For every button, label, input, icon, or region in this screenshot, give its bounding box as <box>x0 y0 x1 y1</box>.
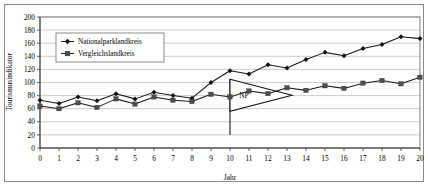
x-tick-label-1: 1 <box>57 154 61 163</box>
x-tick-label-14: 14 <box>302 154 310 163</box>
y-tick-label-200: 200 <box>24 13 35 22</box>
y-tick-label-40: 40 <box>28 117 36 126</box>
data-point-0-12 <box>266 62 271 67</box>
legend-marker-square-icon <box>65 51 70 56</box>
chart-legend: Nationalparklandkreis Vergleichslandkrei… <box>56 33 164 62</box>
x-tick-label-11: 11 <box>245 154 252 163</box>
data-point-1-15 <box>323 84 327 88</box>
data-point-0-0 <box>38 98 43 103</box>
figure-container: 020406080100120140160180200 012345678910… <box>0 0 428 186</box>
x-tick-label-12: 12 <box>264 154 272 163</box>
x-tick-label-17: 17 <box>359 154 367 163</box>
y-tick-label-20: 20 <box>28 131 36 140</box>
data-point-1-14 <box>304 88 308 92</box>
y-tick-label-160: 160 <box>24 39 35 48</box>
data-point-0-16 <box>342 53 347 58</box>
data-point-0-10 <box>228 68 233 73</box>
data-point-1-17 <box>361 81 365 85</box>
data-point-1-10 <box>228 95 232 99</box>
x-tick-label-4: 4 <box>114 154 118 163</box>
x-tick-label-6: 6 <box>152 154 156 163</box>
data-point-1-9 <box>209 92 213 96</box>
data-point-0-13 <box>285 66 290 71</box>
data-point-0-5 <box>133 96 138 101</box>
data-point-1-3 <box>95 105 99 109</box>
legend-label-vergleichslandkreis: Vergleichslandkreis <box>78 50 135 58</box>
x-tick-label-3: 3 <box>95 154 99 163</box>
data-point-1-19 <box>399 82 403 86</box>
data-point-0-1 <box>57 101 62 106</box>
data-point-0-7 <box>171 93 176 98</box>
x-tick-label-16: 16 <box>340 154 348 163</box>
x-tick-label-19: 19 <box>397 154 405 163</box>
data-point-1-2 <box>76 101 80 105</box>
y-axis-title: Tourismusindikator <box>5 53 14 111</box>
data-point-0-20 <box>418 36 423 41</box>
y-tick-label-100: 100 <box>24 78 35 87</box>
data-point-1-12 <box>266 91 270 95</box>
data-point-1-8 <box>190 99 194 103</box>
y-tick-label-140: 140 <box>24 52 35 61</box>
x-tick-label-9: 9 <box>209 154 213 163</box>
x-tick-label-10: 10 <box>226 154 234 163</box>
data-point-1-4 <box>114 97 118 101</box>
x-tick-label-15: 15 <box>321 154 329 163</box>
line-chart: 020406080100120140160180200 012345678910… <box>0 0 428 186</box>
data-point-1-16 <box>342 86 346 90</box>
data-point-1-13 <box>285 86 289 90</box>
x-axis-ticks-group: 01234567891011121314151617181920 <box>38 148 424 163</box>
x-tick-label-5: 5 <box>133 154 137 163</box>
x-tick-label-20: 20 <box>416 154 424 163</box>
x-tick-label-8: 8 <box>190 154 194 163</box>
legend-label-nationalparklandkreis: Nationalparklandkreis <box>78 38 142 46</box>
data-point-0-14 <box>304 57 309 62</box>
y-tick-label-80: 80 <box>28 91 36 100</box>
x-tick-label-13: 13 <box>283 154 291 163</box>
y-tick-label-0: 0 <box>31 144 35 153</box>
data-point-1-20 <box>418 75 422 79</box>
data-point-0-18 <box>380 42 385 47</box>
np-flag-annotation: NP <box>230 79 292 135</box>
data-point-1-18 <box>380 78 384 82</box>
data-point-1-1 <box>57 107 61 111</box>
data-point-1-6 <box>152 95 156 99</box>
y-axis-ticks-group: 020406080100120140160180200 <box>24 13 40 153</box>
data-point-1-7 <box>171 98 175 102</box>
x-tick-label-0: 0 <box>38 154 42 163</box>
data-point-1-11 <box>247 89 251 93</box>
data-point-0-6 <box>152 90 157 95</box>
y-tick-label-60: 60 <box>28 104 36 113</box>
x-tick-label-7: 7 <box>171 154 175 163</box>
data-point-0-19 <box>399 34 404 39</box>
y-tick-label-180: 180 <box>24 26 35 35</box>
data-point-1-5 <box>133 102 137 106</box>
data-point-1-0 <box>38 104 42 108</box>
x-tick-label-2: 2 <box>76 154 80 163</box>
data-point-0-17 <box>361 46 366 51</box>
y-tick-label-120: 120 <box>24 65 35 74</box>
x-tick-label-18: 18 <box>378 154 386 163</box>
data-point-0-3 <box>95 98 100 103</box>
data-point-0-11 <box>247 71 252 76</box>
data-point-0-2 <box>76 94 81 99</box>
x-axis-title: Jahr <box>224 173 237 182</box>
data-point-0-15 <box>323 50 328 55</box>
